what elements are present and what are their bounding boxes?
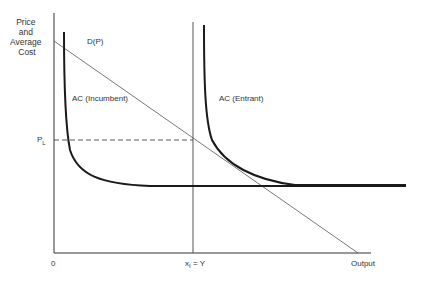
ac-entrant-curve	[204, 25, 406, 185]
demand-label: D(P)	[87, 37, 104, 46]
limit-price-label: PL	[37, 135, 46, 146]
capacity-suffix: = Y	[191, 259, 206, 268]
ac-incumbent-label: AC (Incumbent)	[72, 94, 128, 103]
limit-price-subscript: L	[42, 140, 46, 146]
x-axis-title: Output	[351, 259, 376, 268]
y-axis-title-line: Cost	[18, 47, 36, 57]
ac-entrant-label: AC (Entrant)	[219, 94, 264, 103]
demand-curve	[54, 41, 358, 253]
y-axis-title-line: and	[19, 27, 33, 37]
y-axis-title-line: Price	[16, 17, 36, 27]
ac-incumbent-curve	[64, 32, 406, 186]
y-axis-title: Price and Average Cost	[10, 17, 44, 57]
y-axis-title-line: Average	[10, 37, 42, 47]
capacity-label: xI = Y	[185, 259, 206, 269]
origin-label: 0	[51, 259, 56, 268]
entry-deterrence-diagram: Price and Average Cost D(P) AC (Incumben…	[0, 0, 428, 285]
